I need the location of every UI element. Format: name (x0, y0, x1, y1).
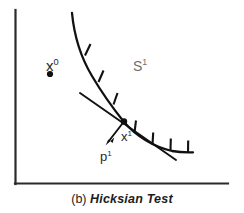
figure-caption: (b) Hicksian Test (0, 192, 244, 206)
caption-tag: (b) (71, 192, 86, 206)
indifference-curve (72, 13, 193, 152)
label-x1-superscript: 1 (128, 129, 132, 138)
hatch-mark (99, 71, 104, 83)
label-x0: x0 (46, 58, 59, 73)
hatch-mark (85, 44, 91, 56)
label-x0-superscript: 0 (54, 57, 59, 67)
budget-line (80, 93, 176, 160)
label-s1-base: S (133, 58, 142, 74)
caption-title: Hicksian Test (90, 192, 173, 206)
label-p1-superscript: 1 (107, 149, 111, 158)
hatch-mark (114, 93, 118, 105)
label-s1: S1 (133, 58, 147, 73)
hicksian-test-figure: x0 S1 x1 p1 (b) Hicksian Test (0, 0, 244, 213)
label-s1-superscript: 1 (142, 57, 147, 67)
label-p1: p1 (100, 150, 112, 163)
figure-canvas (0, 0, 244, 213)
label-x0-base: x (46, 57, 54, 74)
axes-group (15, 10, 228, 184)
label-x1: x1 (121, 130, 132, 143)
indifference-curve-group (72, 13, 193, 153)
